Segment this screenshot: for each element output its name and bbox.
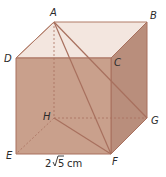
- label-B: B: [150, 10, 157, 21]
- label-F: F: [112, 156, 118, 167]
- label-G: G: [151, 115, 159, 126]
- label-E: E: [6, 150, 13, 161]
- label-A: A: [49, 7, 57, 18]
- dimension-radicand: 5: [58, 158, 64, 169]
- dimension-label: 2 5 cm: [45, 156, 82, 169]
- label-C: C: [114, 57, 121, 68]
- cube-diagram: A B D C H G E F 2 5 cm: [0, 0, 166, 177]
- label-D: D: [4, 53, 12, 64]
- dimension-coefficient: 2: [45, 158, 51, 169]
- front-face: [16, 58, 111, 154]
- label-H: H: [43, 111, 51, 122]
- dimension-unit: cm: [67, 158, 82, 169]
